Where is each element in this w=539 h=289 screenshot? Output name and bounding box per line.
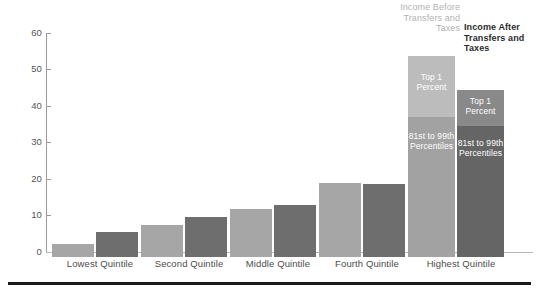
bar-group-fourth-quintile [319, 28, 405, 257]
bar-after-second-quintile[interactable] [185, 217, 227, 257]
segment-label-after-81st-99th: 81st to 99th Percentiles [457, 138, 504, 158]
bar-before-highest-quintile[interactable]: Top 1 Percent 81st to 99th Percentiles [408, 56, 455, 257]
bar-before-middle-quintile[interactable] [230, 209, 272, 257]
x-axis-label-middle-quintile: Middle Quintile [230, 258, 326, 270]
bar-after-highest-quintile[interactable]: Top 1 Percent 81st to 99th Percentiles [457, 90, 504, 257]
x-axis-label-second-quintile: Second Quintile [141, 258, 237, 270]
bar-before-second-quintile[interactable] [141, 225, 183, 257]
x-axis-label-lowest-quintile: Lowest Quintile [52, 258, 148, 270]
bar-group-second-quintile [141, 28, 227, 257]
segment-before-top1percent[interactable]: Top 1 Percent [408, 56, 455, 117]
segment-after-top1percent[interactable]: Top 1 Percent [457, 90, 504, 126]
y-axis-label-50: 50 [8, 64, 42, 74]
y-axis-label-0: 0 [8, 247, 42, 257]
legend-item-income-after: Income After Transfers and Taxes [464, 22, 538, 54]
y-axis-label-text: 10 [14, 210, 42, 220]
y-axis-label-text: 0 [14, 247, 42, 257]
income-distribution-bar-chart: 60 50 40 30 20 10 0 [0, 0, 539, 289]
x-axis-label-fourth-quintile: Fourth Quintile [319, 258, 415, 270]
y-axis-label-text: 20 [14, 174, 42, 184]
y-axis-label-20: 20 [8, 174, 42, 184]
bar-group-lowest-quintile [52, 28, 138, 257]
y-axis-label-10: 10 [8, 210, 42, 220]
y-axis-label-40: 40 [8, 101, 42, 111]
bar-after-fourth-quintile[interactable] [363, 184, 405, 257]
y-axis-label-30: 30 [8, 137, 42, 147]
segment-after-81st-99th[interactable]: 81st to 99th Percentiles [457, 126, 504, 257]
y-axis-label-text: 50 [14, 64, 42, 74]
bar-group-middle-quintile [230, 28, 316, 257]
y-axis-label-text: 60 [14, 28, 42, 38]
segment-label-after-top1percent: Top 1 Percent [457, 96, 504, 116]
bar-before-lowest-quintile[interactable] [52, 244, 94, 257]
plot-area: Top 1 Percent 81st to 99th Percentiles T… [46, 28, 533, 257]
bar-after-lowest-quintile[interactable] [96, 232, 138, 257]
y-axis-label-60: 60 [8, 28, 42, 38]
segment-label-before-81st-99th: 81st to 99th Percentiles [408, 131, 455, 151]
segment-before-81st-99th[interactable]: 81st to 99th Percentiles [408, 117, 455, 257]
bar-after-middle-quintile[interactable] [274, 205, 316, 257]
legend-item-income-before: Income Before Transfers and Taxes [398, 2, 460, 34]
y-axis-label-text: 30 [14, 137, 42, 147]
segment-label-before-top1percent: Top 1 Percent [408, 72, 455, 92]
bottom-divider-rule [8, 282, 531, 285]
bar-before-fourth-quintile[interactable] [319, 183, 361, 257]
x-axis-label-highest-quintile: Highest Quintile [411, 258, 511, 270]
bar-group-highest-quintile: Top 1 Percent 81st to 99th Percentiles T… [408, 28, 504, 257]
y-axis-label-text: 40 [14, 101, 42, 111]
